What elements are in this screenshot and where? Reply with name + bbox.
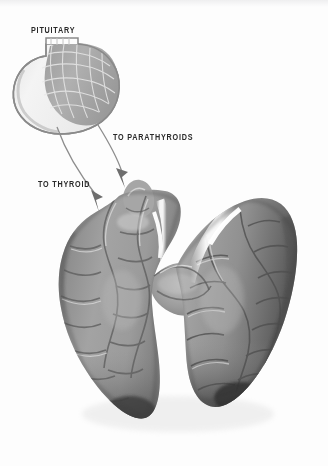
arrowhead-to-parathyroids <box>116 168 128 188</box>
thyroid-gland-group <box>57 180 301 432</box>
pituitary-gland-group <box>13 38 119 134</box>
label-pituitary: PITUITARY <box>31 26 75 35</box>
label-to-parathyroids: TO PARATHYROIDS <box>113 133 193 142</box>
illustration-canvas: PITUITARY TO PARATHYROIDS TO THYROID <box>0 0 328 466</box>
arrowhead-to-thyroid <box>91 190 103 212</box>
label-to-thyroid: TO THYROID <box>38 180 90 189</box>
anatomy-illustration-svg <box>0 0 328 466</box>
